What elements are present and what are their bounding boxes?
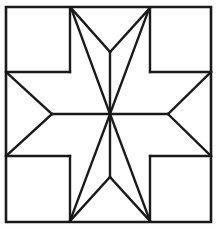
corner-square-bottom-left (6, 156, 70, 222)
eight-pointed-star-diagram (0, 0, 216, 229)
corner-square-bottom-right (150, 156, 211, 222)
corner-square-top-right (149, 7, 211, 72)
figure-root (0, 0, 216, 229)
corner-square-top-left (6, 7, 71, 72)
